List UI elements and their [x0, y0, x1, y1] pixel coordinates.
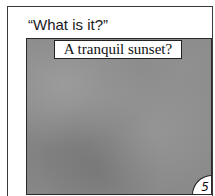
photo-caption: A tranquil sunset?: [54, 40, 182, 59]
comic-panel: “What is it?” A tranquil sunset? 5: [7, 6, 213, 196]
question-heading: “What is it?”: [28, 16, 108, 33]
abstract-photo: A tranquil sunset? 5: [26, 38, 212, 195]
page-number-badge: 5: [192, 175, 212, 195]
